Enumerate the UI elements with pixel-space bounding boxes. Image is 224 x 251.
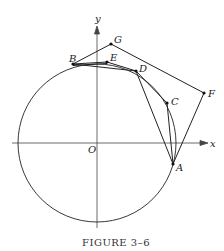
y-axis-arrow-icon — [95, 26, 100, 34]
figure-diagram: x y O A B C D E F G FIGURE 3–6 — [0, 0, 224, 251]
label-e: E — [109, 52, 118, 63]
label-a: A — [175, 162, 183, 173]
point-a — [171, 162, 174, 165]
label-c: C — [171, 96, 179, 107]
figure-caption: FIGURE 3–6 — [82, 237, 150, 248]
label-b: B — [68, 53, 76, 64]
y-axis-label: y — [94, 13, 101, 24]
label-g: G — [114, 34, 122, 45]
x-axis-arrow-icon — [200, 141, 208, 146]
label-f: F — [207, 88, 216, 99]
point-e — [105, 60, 108, 63]
point-c — [165, 101, 168, 104]
point-f — [202, 91, 205, 94]
point-g — [109, 42, 112, 45]
x-axis-label: x — [210, 138, 216, 149]
point-d — [134, 69, 137, 72]
origin-label: O — [88, 144, 96, 155]
label-d: D — [138, 63, 147, 74]
